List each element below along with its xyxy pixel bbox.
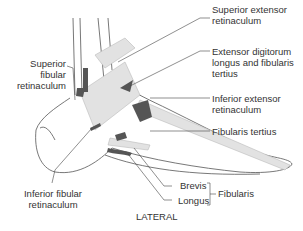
label-superior-extensor-retinaculum: Superior extensor retinaculum: [212, 4, 287, 26]
label-line: tertius: [212, 68, 294, 79]
label-line: Superior extensor: [212, 4, 287, 15]
label-line: Inferior extensor: [212, 93, 281, 104]
label-line: longus and fibularis: [212, 57, 294, 68]
label-line: retinaculum: [10, 80, 66, 91]
label-inferior-fibular-retinaculum: Inferior fibular retinaculum: [20, 188, 86, 210]
label-line: fibular: [10, 69, 66, 80]
label-line: Extensor digitorum: [212, 46, 294, 57]
label-line: Superior: [10, 58, 66, 69]
label-line: retinaculum: [212, 104, 281, 115]
label-fibularis-tertius: Fibularis tertius: [212, 126, 276, 137]
view-label: LATERAL: [136, 211, 178, 222]
label-line: retinaculum: [212, 15, 287, 26]
label-fibularis: Fibularis: [218, 188, 254, 199]
label-longus: Longus: [178, 195, 209, 206]
label-line: retinaculum: [20, 199, 86, 210]
label-extensor-digitorum: Extensor digitorum longus and fibularis …: [212, 46, 294, 79]
label-inferior-extensor-retinaculum: Inferior extensor retinaculum: [212, 93, 281, 115]
ankle-lateral-diagram: Superior extensor retinaculum Extensor d…: [0, 0, 303, 231]
label-brevis: Brevis: [180, 180, 206, 191]
label-superior-fibular-retinaculum: Superior fibular retinaculum: [10, 58, 66, 91]
label-line: Inferior fibular: [20, 188, 86, 199]
